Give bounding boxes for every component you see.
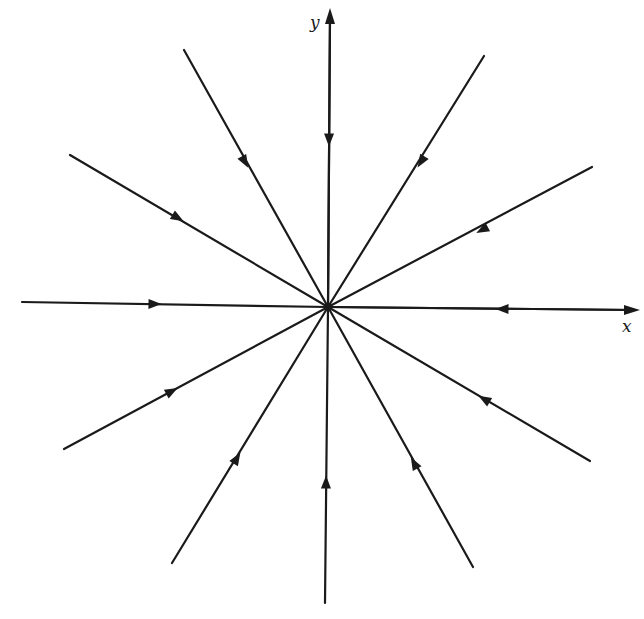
x-axis-label: x — [622, 316, 632, 336]
y-axis-label: y — [309, 12, 320, 32]
x-axis-line — [328, 307, 636, 310]
phase-portrait-diagram: y x — [0, 0, 644, 619]
axes: y x — [309, 8, 640, 336]
trajectory-lower-right-steep — [328, 307, 473, 567]
trajectory-lower-right-shallow — [328, 307, 590, 461]
trajectory-down — [325, 307, 328, 603]
x-axis-arrowhead-icon — [624, 305, 640, 315]
direction-arrow-icon — [164, 388, 178, 399]
y-axis-arrowhead-icon — [325, 8, 335, 24]
trajectory-upper-left-shallow — [70, 155, 328, 307]
direction-arrow-icon — [170, 210, 184, 221]
trajectory-upper-right-steep — [328, 56, 484, 307]
direction-arrow-icon — [418, 154, 429, 168]
trajectory-lower-left-shallow — [64, 307, 328, 449]
direction-arrow-icon — [237, 154, 248, 168]
direction-arrow-icon — [321, 476, 331, 489]
trajectory-upper-right-shallow — [328, 167, 592, 307]
origin-node — [324, 303, 332, 311]
trajectory-upper-left-steep — [184, 50, 328, 307]
direction-arrow-icon — [411, 457, 422, 471]
trajectory-lower-left-steep — [172, 307, 328, 563]
direction-arrow-icon — [478, 396, 492, 407]
trajectory-left — [22, 302, 328, 307]
y-axis-line — [328, 18, 330, 307]
direction-arrow-icon — [148, 299, 161, 309]
